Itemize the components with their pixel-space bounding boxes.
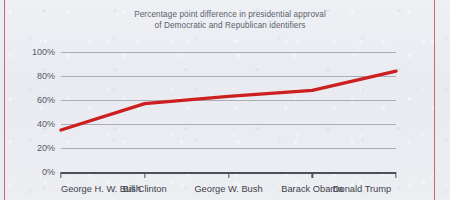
- x-axis-label-bill-clinton: Bill Clinton: [123, 184, 167, 194]
- x-axis-tick-1: [144, 172, 145, 178]
- x-axis-tick-4: [395, 172, 396, 178]
- line-chart: Percentage point difference in president…: [0, 0, 450, 200]
- x-axis-label-george-w-bush: George W. Bush: [194, 184, 262, 194]
- y-axis-label-40: 40%: [37, 119, 55, 129]
- x-axis-tick-0: [60, 172, 61, 178]
- y-axis-label-0: 0%: [42, 167, 55, 177]
- x-axis-tick-2: [228, 172, 229, 178]
- x-axis-label-donald-trump: Donald Trump: [333, 184, 391, 194]
- chart-title: Percentage point difference in president…: [60, 9, 400, 31]
- y-axis-label-100: 100%: [32, 47, 55, 57]
- series-line-approval-gap: [61, 71, 396, 130]
- scanned-page: Percentage point difference in president…: [0, 0, 450, 200]
- y-axis-label-60: 60%: [37, 95, 55, 105]
- y-axis-label-80: 80%: [37, 71, 55, 81]
- x-axis-tick-3: [312, 172, 313, 178]
- plot-area: 0%20%40%60%80%100% George H. W. BushBill…: [61, 52, 396, 172]
- y-axis-label-20: 20%: [37, 143, 55, 153]
- series-line-group: [61, 52, 396, 172]
